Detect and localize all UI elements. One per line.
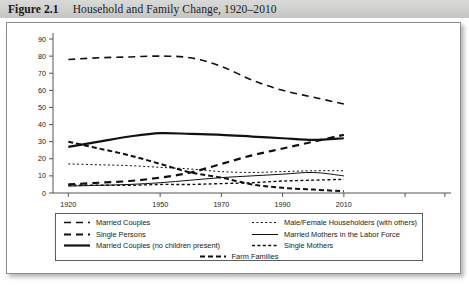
legend-swatch-dashed-bold-icon: [200, 252, 226, 261]
svg-text:90: 90: [38, 35, 46, 44]
legend-item-label: Male/Female Householders (with others): [284, 218, 417, 227]
svg-text:10: 10: [38, 171, 46, 180]
svg-text:80: 80: [38, 52, 46, 61]
legend-item: Married Couples: [64, 217, 250, 229]
legend-swatch-dashed-icon: [64, 218, 90, 227]
series-line: [68, 133, 344, 147]
series-line: [68, 135, 344, 185]
legend-swatch-dotted-fine-icon: [252, 218, 278, 227]
figure-title: Household and Family Change, 1920–2010: [73, 3, 277, 15]
legend-column-right: Male/Female Householders (with others)Ma…: [252, 217, 422, 252]
svg-text:1970: 1970: [213, 200, 229, 209]
x-axis-tick-labels: 19201950197019902010: [60, 200, 352, 209]
legend-item-label: Married Couples: [96, 218, 150, 227]
figure-panel: 0102030405060708090 19201950197019902010…: [6, 22, 461, 274]
legend-item-label: Married Mothers in the Labor Force: [284, 230, 400, 239]
figure-caption-band: Figure 2.1 Household and Family Change, …: [0, 0, 469, 18]
legend-item-label: Single Persons: [96, 230, 146, 239]
svg-text:50: 50: [38, 103, 46, 112]
svg-text:1920: 1920: [60, 200, 76, 209]
legend-item: Single Mothers: [252, 240, 422, 252]
figure-number: Figure 2.1: [8, 3, 59, 15]
svg-text:20: 20: [38, 154, 46, 163]
legend-row-farm-families: Farm Families: [56, 251, 422, 263]
legend-item: Male/Female Householders (with others): [252, 217, 422, 229]
legend-column-left: Married CouplesSingle PersonsMarried Cou…: [64, 217, 250, 252]
svg-text:0: 0: [42, 189, 46, 198]
series-line: [68, 164, 344, 173]
svg-text:70: 70: [38, 69, 46, 78]
chart-legend: Married CouplesSingle PersonsMarried Cou…: [55, 213, 423, 261]
legend-item-label: Married Couples (no children present): [96, 241, 220, 250]
legend-swatch-dotted-icon: [252, 241, 278, 250]
series-line: [68, 56, 344, 104]
legend-swatch-solid-thin-icon: [252, 230, 278, 239]
legend-item: Single Persons: [64, 229, 250, 241]
legend-item: Farm Families: [200, 251, 279, 263]
svg-text:60: 60: [38, 86, 46, 95]
chart-series-lines: [68, 56, 344, 191]
svg-text:40: 40: [38, 120, 46, 129]
legend-item: Married Mothers in the Labor Force: [252, 229, 422, 241]
svg-text:1990: 1990: [275, 200, 291, 209]
svg-text:30: 30: [38, 137, 46, 146]
svg-text:1950: 1950: [152, 200, 168, 209]
legend-item: Married Couples (no children present): [64, 240, 250, 252]
legend-item-label: Single Mothers: [284, 241, 333, 250]
y-axis-tick-labels: 0102030405060708090: [38, 35, 46, 198]
legend-swatch-dashed-thick-icon: [64, 230, 90, 239]
legend-item-label: Farm Families: [232, 252, 279, 261]
svg-text:2010: 2010: [336, 200, 352, 209]
legend-swatch-solid-thick-icon: [64, 241, 90, 250]
